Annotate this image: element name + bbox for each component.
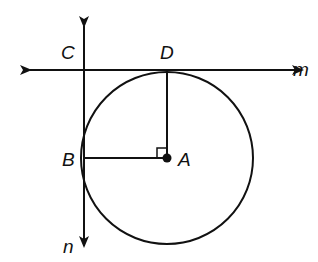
diagram-svg: A B C D m n <box>0 0 318 262</box>
label-n: n <box>63 236 74 257</box>
label-m: m <box>293 59 309 80</box>
label-d: D <box>160 42 174 63</box>
label-b: B <box>62 149 75 170</box>
point-a-dot <box>163 154 172 163</box>
label-c: C <box>61 42 75 63</box>
label-a: A <box>177 149 191 170</box>
geometry-diagram: A B C D m n <box>0 0 318 262</box>
